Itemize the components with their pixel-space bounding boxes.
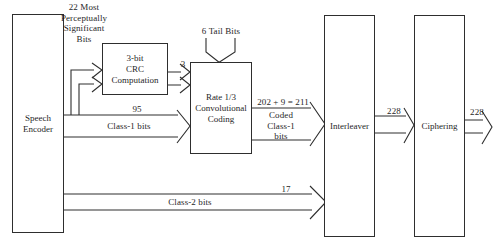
wire-msb-branches bbox=[71, 70, 94, 115]
diagram-canvas: Speech Encoder 3-bit CRC Computation Rat… bbox=[0, 0, 502, 249]
label-tail-bits: 6 Tail Bits bbox=[202, 26, 240, 37]
label-class1-count: 95 bbox=[132, 104, 141, 115]
label-coded-class1-bits: Coded Class-1 bits bbox=[267, 110, 295, 142]
label-class2-count: 17 bbox=[281, 184, 290, 195]
block-convolutional-coding-label: Rate 1/3 Convolutional Coding bbox=[195, 92, 247, 125]
block-interleaver: Interleaver bbox=[324, 15, 375, 237]
arrowhead-class1-bus bbox=[177, 110, 190, 143]
block-speech-encoder-label: Speech Encoder bbox=[23, 113, 53, 135]
block-convolutional-coding: Rate 1/3 Convolutional Coding bbox=[190, 62, 252, 154]
block-speech-encoder: Speech Encoder bbox=[12, 14, 64, 233]
block-interleaver-label: Interleaver bbox=[330, 121, 369, 132]
wire-tail-bits-funnel bbox=[206, 38, 235, 63]
label-crc-bits-count: 3 bbox=[181, 59, 186, 70]
block-crc-computation: 3-bit CRC Computation bbox=[102, 43, 168, 95]
label-ciphering-out-count: 228 bbox=[470, 107, 484, 118]
label-msb-bits: 22 Most Perceptually Significant Bits bbox=[61, 2, 107, 44]
arrowhead-coded-bus bbox=[310, 102, 325, 146]
arrowhead-ciphering-in bbox=[404, 108, 414, 143]
block-ciphering-label: Ciphering bbox=[422, 121, 458, 132]
block-crc-computation-label: 3-bit CRC Computation bbox=[112, 53, 159, 86]
label-interleaver-out-count: 228 bbox=[387, 106, 401, 117]
label-class1-bits: Class-1 bits bbox=[107, 121, 150, 132]
wire-interleaver-out bbox=[375, 116, 406, 133]
block-ciphering: Ciphering bbox=[414, 15, 465, 237]
label-coded-sum: 202 + 9 = 211 bbox=[257, 97, 309, 108]
wire-crc-out bbox=[168, 72, 181, 85]
label-class2-bits: Class-2 bits bbox=[168, 197, 211, 208]
wire-ciphering-out bbox=[465, 120, 483, 133]
